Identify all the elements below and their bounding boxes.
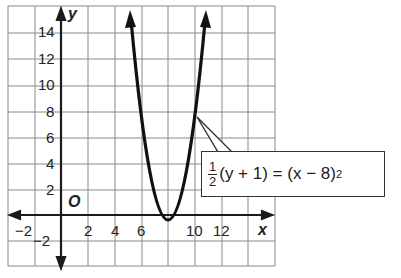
y-tick-2: 2 <box>46 182 54 197</box>
x-tick-6: 6 <box>137 223 145 238</box>
equation-text: (y + 1) = (x − 8) <box>219 164 336 184</box>
equation-callout: 1 2 (y + 1) = (x − 8)2 <box>201 151 385 197</box>
callout-pointer <box>197 117 232 152</box>
y-tick-10: 10 <box>38 77 55 92</box>
y-tick-12: 12 <box>38 51 55 66</box>
fraction-numerator: 1 <box>208 160 217 175</box>
y-axis-label: y <box>68 5 77 23</box>
y-tick-8: 8 <box>46 104 54 119</box>
x-tick-10: 10 <box>186 223 203 238</box>
x-tick-4: 4 <box>111 223 119 238</box>
y-tick-14: 14 <box>38 24 55 39</box>
x-axis-left-arrow-icon <box>10 211 20 219</box>
fraction-denominator: 2 <box>209 175 216 189</box>
y-tick-neg2: −2 <box>33 233 50 248</box>
x-tick-neg2: −2 <box>15 223 32 238</box>
x-axis-right-arrow-icon <box>262 211 272 219</box>
equation-fraction: 1 2 <box>208 160 217 188</box>
y-tick-6: 6 <box>46 130 54 145</box>
y-axis-up-arrow-icon <box>57 9 65 20</box>
equation-exponent: 2 <box>336 168 342 180</box>
origin-label: O <box>68 193 80 211</box>
x-axis-label: x <box>258 221 267 239</box>
curve-left-arrow-icon <box>125 10 136 28</box>
x-tick-2: 2 <box>84 223 92 238</box>
y-tick-4: 4 <box>46 156 54 171</box>
curve-right-arrow-icon <box>200 10 211 28</box>
x-tick-12: 12 <box>213 223 230 238</box>
